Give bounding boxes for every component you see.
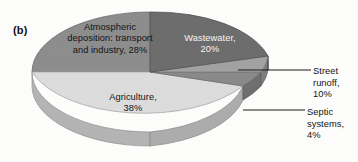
pie-label-wastewater: Wastewater, 20% bbox=[168, 33, 252, 56]
pie-label-septic-systems: Septic systems, 4% bbox=[307, 107, 358, 142]
pie-chart-figure: (b) bbox=[0, 0, 358, 162]
pie-label-atmospheric-deposition: Atmospheric deposition: transport and in… bbox=[54, 22, 166, 56]
pie-label-agriculture: Agriculture, 38% bbox=[85, 92, 181, 115]
pie-label-street-runoff: Street runoff, 10% bbox=[313, 66, 358, 101]
